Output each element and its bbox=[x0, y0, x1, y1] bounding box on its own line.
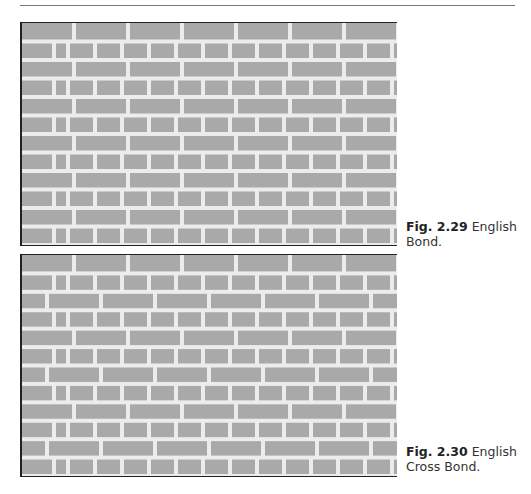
english-bond-figure bbox=[20, 22, 397, 246]
running-header-rule bbox=[20, 5, 515, 6]
fig-2-30-caption: Fig. 2.30 English Cross Bond. bbox=[406, 444, 526, 474]
figure-title-line2: Cross Bond. bbox=[406, 459, 480, 474]
figure-number: Fig. 2.30 bbox=[406, 444, 468, 459]
figure-title-line1: English bbox=[472, 219, 517, 234]
figure-number: Fig. 2.29 bbox=[406, 219, 468, 234]
figure-title-line2: Bond. bbox=[406, 234, 442, 249]
english-bond-brick-pattern bbox=[22, 23, 397, 245]
figure-title-line1: English bbox=[472, 444, 517, 459]
english-cross-bond-brick-pattern bbox=[22, 255, 397, 476]
english-cross-bond-figure bbox=[20, 254, 397, 477]
fig-2-29-caption: Fig. 2.29 English Bond. bbox=[406, 219, 526, 249]
